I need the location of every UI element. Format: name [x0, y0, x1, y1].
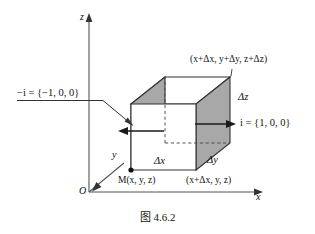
right-normal-vector-label: i = {1, 0, 0}	[240, 118, 290, 129]
right-normal-arrowhead	[226, 120, 236, 128]
origin-label: O	[79, 186, 86, 196]
z-axis-label: z	[80, 12, 84, 22]
corner-point-marker	[128, 167, 133, 172]
far-corner-leader-line	[231, 69, 232, 76]
z-axis-arrowhead	[86, 13, 93, 22]
left-normal-vector-label: −i = {−1, 0, 0}	[17, 88, 79, 99]
delta-x-label: Δx	[154, 156, 165, 167]
left-normal-arrowhead	[118, 127, 128, 135]
y-axis-label: y	[112, 150, 116, 160]
origin-corner-label: M(x, y, z)	[118, 176, 155, 186]
x-corner-coordinate-label: (x+Δx, y, z)	[186, 176, 231, 186]
left-leader-line	[103, 101, 130, 124]
delta-y-label: Δy	[207, 155, 218, 166]
delta-z-label: Δz	[238, 92, 248, 103]
figure-container: z y x O −i = {−1, 0, 0} i = {1, 0, 0} (x…	[0, 0, 315, 234]
figure-caption: 图 4.6.2	[0, 208, 315, 224]
x-axis-label: x	[256, 192, 260, 202]
far-corner-leader	[231, 69, 232, 76]
far-corner-coordinate-label: (x+Δx, y+Δy, z+Δz)	[190, 55, 267, 65]
